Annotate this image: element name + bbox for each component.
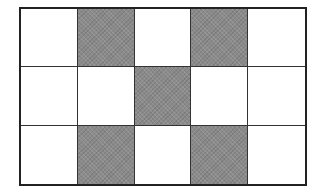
empty-cell — [78, 67, 135, 125]
empty-cell — [21, 9, 78, 67]
shaded-cell — [191, 9, 248, 67]
empty-cell — [248, 9, 305, 67]
shaded-cell — [135, 67, 192, 125]
shaded-grid-diagram — [19, 7, 307, 186]
empty-cell — [21, 67, 78, 125]
empty-cell — [191, 67, 248, 125]
empty-cell — [135, 126, 192, 184]
empty-cell — [248, 67, 305, 125]
empty-cell — [21, 126, 78, 184]
shaded-cell — [191, 126, 248, 184]
shaded-cell — [78, 9, 135, 67]
empty-cell — [248, 126, 305, 184]
shaded-cell — [78, 126, 135, 184]
empty-cell — [135, 9, 192, 67]
